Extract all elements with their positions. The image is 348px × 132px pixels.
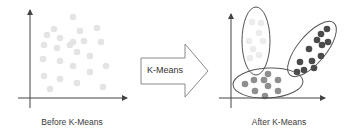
data-point: [250, 46, 257, 53]
after-panel: [219, 7, 345, 108]
data-point: [74, 49, 81, 56]
data-point: [325, 39, 332, 46]
data-point: [319, 42, 326, 49]
before-caption: Before K-Means: [41, 117, 102, 127]
data-point: [94, 25, 101, 32]
kmeans-diagram: K-Means Before K-Means After K-Means: [0, 0, 348, 132]
cluster-light: [242, 7, 270, 75]
data-point: [256, 52, 263, 59]
data-point: [247, 55, 254, 62]
data-point: [324, 26, 331, 33]
data-point: [246, 38, 253, 45]
data-point: [249, 19, 256, 26]
after-caption: After K-Means: [252, 117, 306, 127]
data-point: [51, 26, 58, 33]
data-point: [251, 77, 258, 84]
data-point: [74, 80, 81, 87]
data-point: [265, 71, 272, 78]
cluster-medium: [232, 66, 303, 100]
data-point: [77, 28, 84, 35]
transform-arrow-label: K-Means: [147, 65, 183, 75]
data-point: [57, 58, 64, 65]
data-point: [67, 42, 74, 49]
data-point: [265, 83, 272, 90]
data-point: [318, 31, 325, 38]
cluster-dark: [279, 14, 344, 84]
data-point: [260, 38, 267, 45]
data-point: [242, 81, 249, 88]
data-point: [306, 46, 313, 53]
data-point: [252, 88, 259, 95]
data-point: [87, 69, 94, 76]
data-point: [41, 42, 48, 49]
data-point: [275, 77, 282, 84]
before-panel: [18, 10, 127, 108]
data-point: [275, 88, 282, 95]
data-point: [261, 77, 268, 84]
data-point: [70, 63, 77, 70]
data-point: [57, 76, 64, 83]
data-point: [103, 63, 110, 70]
data-point: [57, 35, 64, 42]
data-point: [44, 32, 51, 39]
data-point: [40, 56, 47, 63]
data-point: [98, 39, 105, 46]
data-point: [311, 65, 318, 72]
data-point: [309, 58, 316, 65]
data-point: [70, 14, 77, 21]
before-points: [40, 14, 110, 93]
data-point: [87, 53, 94, 60]
data-point: [258, 20, 265, 27]
data-point: [297, 59, 304, 66]
data-point: [47, 86, 54, 93]
after-clusters: [232, 7, 344, 100]
data-point: [318, 53, 325, 60]
data-point: [41, 73, 48, 80]
data-point: [314, 37, 321, 44]
data-point: [100, 84, 107, 91]
data-point: [256, 30, 263, 37]
data-point: [54, 45, 61, 52]
data-point: [81, 38, 88, 45]
